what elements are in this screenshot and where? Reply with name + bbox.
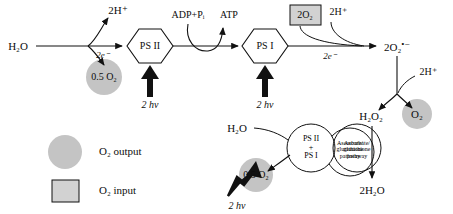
light-label-ps2: 2 hν bbox=[142, 100, 159, 110]
legend-output-swatch bbox=[48, 135, 82, 169]
protons-uptake-label: 2H⁺ bbox=[329, 7, 346, 17]
atp-label: ATP bbox=[220, 10, 238, 20]
protons-to-superoxide-curve bbox=[398, 76, 415, 93]
light-label-ps1: 2 hν bbox=[257, 100, 274, 110]
water-product-label: 2H₂O bbox=[359, 185, 384, 196]
oxygen-evolved-label-upper: 0.5 O₂ bbox=[91, 72, 117, 82]
protons-released-label: 2H⁺ bbox=[108, 5, 127, 16]
electron-transfer-label-2: 2e⁻ bbox=[323, 52, 337, 61]
combined-line-3: PS I bbox=[289, 152, 333, 161]
legend-input-label: O₂ input bbox=[99, 185, 136, 196]
diagram-vector-layer bbox=[0, 0, 453, 214]
combined-photosystems-label: PS II + PS I bbox=[289, 135, 333, 161]
light-arrow-ps2 bbox=[141, 65, 159, 97]
split-to-peroxide-arrow bbox=[379, 94, 397, 110]
hydrogen-peroxide-label: H₂O₂ bbox=[359, 111, 383, 122]
oxygen-output-label: O₂ bbox=[411, 109, 423, 120]
light-label-lower: 2 hν bbox=[229, 201, 246, 211]
protons-to-line-curve bbox=[331, 22, 364, 46]
branch-to-protons-arrow bbox=[88, 18, 108, 46]
pathway-lower-line-3: pathway bbox=[333, 153, 381, 159]
superoxide-charge: •− bbox=[401, 39, 409, 49]
legend-input-swatch bbox=[52, 180, 79, 202]
ascorbate-pathway-label-lower: Ascorbate/ glutathione pathway bbox=[333, 140, 381, 159]
oxygen-evolved-label-lower: 0.5 O₂ bbox=[243, 170, 269, 180]
photosystem-ii-label: PS II bbox=[140, 41, 160, 51]
lower-water-source-label: H₂O bbox=[227, 123, 247, 134]
lower-water-to-circle-curve bbox=[254, 128, 288, 140]
circle-to-oxygen-arrow bbox=[268, 155, 290, 171]
legend-output-label: O₂ output bbox=[99, 146, 142, 157]
superoxide-label: 2O₂•− bbox=[384, 40, 410, 53]
light-arrow-ps1 bbox=[256, 65, 274, 97]
photosystem-i-label: PS I bbox=[257, 41, 274, 51]
electron-transfer-label: 2e⁻ bbox=[96, 51, 110, 60]
oxygen-input-label: 2O₂ bbox=[297, 10, 313, 20]
adp-to-atp-curve bbox=[187, 24, 223, 51]
adp-phosphate-label: ADP+Pᵢ bbox=[172, 10, 205, 20]
photosynthesis-oxygen-diagram: H₂O 2H⁺ 2e⁻ 0.5 O₂ PS II 2 hν ADP+Pᵢ ATP… bbox=[0, 0, 453, 214]
protons-uptake-label-2: 2H⁺ bbox=[419, 67, 436, 77]
water-source-label: H₂O bbox=[8, 41, 28, 52]
